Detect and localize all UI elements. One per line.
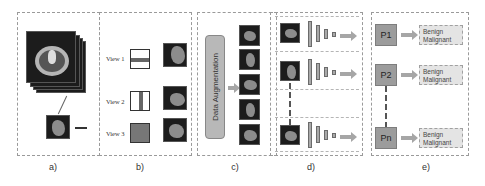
cnn-2-layer-1 (308, 59, 312, 85)
cnn-2-layer-2 (316, 63, 320, 80)
cnn-1-layer-3 (324, 29, 328, 39)
cube-view-2 (130, 91, 150, 111)
view-2-label: View 2 (106, 98, 125, 105)
cnn-1-layer-2 (316, 25, 320, 42)
result-p2-benign: Benign (423, 68, 459, 76)
panel-a-label: a) (38, 162, 68, 172)
augmented-patch-4 (239, 99, 260, 120)
p1-arrow (401, 33, 413, 37)
panel-e: P1 Benign Malignant P2 Benign Malignant … (371, 12, 469, 156)
cnn-1-layer-4 (332, 32, 336, 37)
cnn-n-layer-1 (308, 122, 312, 148)
data-augmentation-box: Data Augmentation (205, 35, 225, 139)
cnn-2-layer-3 (324, 67, 328, 77)
data-augmentation-label: Data Augmentation (211, 53, 220, 121)
view-3-patch (163, 118, 187, 142)
patient-box-p1: P1 (375, 24, 397, 46)
cnn-2-layer-4 (332, 70, 336, 75)
augment-arrow (228, 86, 235, 90)
augmented-patch-1 (239, 25, 260, 46)
cnn-input-1 (280, 23, 300, 43)
panel-b-label: b) (125, 162, 155, 172)
panel-a (17, 12, 100, 156)
cnn-n-layer-3 (324, 130, 328, 140)
cnn-2-output-arrow (340, 72, 352, 76)
result-p2-malignant: Malignant (423, 76, 459, 84)
augmented-patch-2 (239, 49, 260, 70)
pn-arrow (401, 136, 413, 140)
panel-d (270, 12, 363, 156)
panel-d-label: d) (296, 162, 326, 172)
ellipsis-vertical-dashes (385, 86, 387, 128)
panel-e-label: e) (411, 162, 441, 172)
dash-marker (75, 127, 87, 129)
cnn-n-output-arrow (340, 135, 352, 139)
panel-c: Data Augmentation (197, 12, 277, 156)
view-2-patch (163, 86, 187, 110)
ct-volume-stack (26, 31, 86, 93)
cnn-n-layer-4 (332, 133, 336, 138)
ellipsis-vertical-dashes (289, 83, 291, 125)
augmented-patch-3 (239, 74, 260, 95)
panel-b: View 1 View 2 View 3 (99, 12, 192, 156)
result-box-p2: Benign Malignant (419, 65, 463, 85)
cnn-1-output-arrow (340, 34, 352, 38)
nodule-crop (46, 115, 70, 139)
result-pn-malignant: Malignant (423, 139, 459, 147)
cube-view-1 (130, 49, 150, 69)
result-p1-malignant: Malignant (423, 36, 459, 44)
cnn-n-layer-2 (316, 126, 320, 143)
cnn-input-n (280, 125, 300, 145)
view-1-label: View 1 (106, 55, 125, 62)
cube-view-3 (130, 123, 150, 143)
view-3-label: View 3 (106, 130, 125, 137)
patient-box-p2: P2 (375, 64, 397, 86)
panel-c-label: c) (220, 162, 250, 172)
result-pn-benign: Benign (423, 131, 459, 139)
result-box-pn: Benign Malignant (419, 128, 463, 148)
connector-line (58, 96, 67, 115)
cnn-input-2 (280, 61, 300, 81)
p2-arrow (401, 73, 413, 77)
ct-slice-image (26, 31, 76, 83)
result-p1-benign: Benign (423, 28, 459, 36)
cnn-1-layer-1 (308, 21, 312, 47)
view-1-patch (163, 43, 187, 67)
patient-box-pn: Pn (375, 127, 397, 149)
result-box-p1: Benign Malignant (419, 25, 463, 45)
augmented-patch-5 (239, 124, 260, 145)
